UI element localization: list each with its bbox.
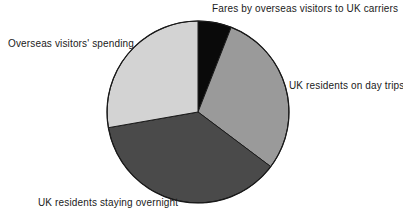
pie-label-spending: Overseas visitors' spending: [8, 38, 134, 50]
pie-label-overnight: UK residents staying overnight: [38, 197, 178, 209]
pie-label-fares: Fares by overseas visitors to UK carrier…: [212, 3, 398, 15]
pie-chart-svg: [0, 0, 403, 222]
pie-label-day-trips: UK residents on day trips: [289, 80, 403, 92]
pie-chart-figure: Fares by overseas visitors to UK carrier…: [0, 0, 403, 222]
pie-slice-spending[interactable]: [107, 21, 198, 128]
